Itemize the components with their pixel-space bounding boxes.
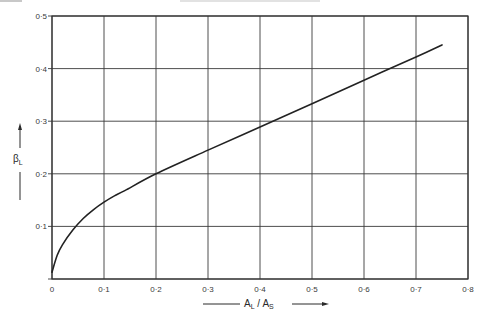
x-tick-label: 0·1: [98, 285, 110, 294]
y-tick-label: 0·5: [35, 12, 47, 21]
x-tick-label: 0·2: [150, 285, 162, 294]
x-axis-title: AL / AS: [244, 298, 274, 310]
x-tick-labels: 00·10·20·30·40·50·60·70·8: [50, 285, 475, 294]
data-curve: [52, 45, 442, 272]
y-tick-label: 0·1: [35, 222, 47, 231]
y-axis-title: βL: [13, 153, 23, 166]
arrow-right-icon: [322, 302, 329, 306]
grid-lines: [48, 16, 468, 279]
cropped-page-header: [0, 0, 320, 2]
x-tick-label: 0·4: [254, 285, 266, 294]
y-tick-labels: 0·10·20·30·40·5: [35, 12, 47, 231]
x-tick-label: 0·3: [202, 285, 214, 294]
x-tick-label: 0·8: [462, 285, 474, 294]
chart: 00·10·20·30·40·50·60·70·8 0·10·20·30·40·…: [0, 0, 485, 318]
y-tick-label: 0·4: [35, 65, 47, 74]
x-tick-label: 0·5: [306, 285, 318, 294]
y-tick-label: 0·3: [35, 117, 47, 126]
x-tick-label: 0·7: [410, 285, 422, 294]
x-tick-label: 0: [50, 285, 55, 294]
y-axis-label: βL: [13, 123, 23, 200]
arrow-up-icon: [18, 123, 22, 130]
x-tick-label: 0·6: [358, 285, 370, 294]
x-axis-label: AL / AS: [203, 298, 329, 310]
y-tick-label: 0·2: [35, 170, 47, 179]
